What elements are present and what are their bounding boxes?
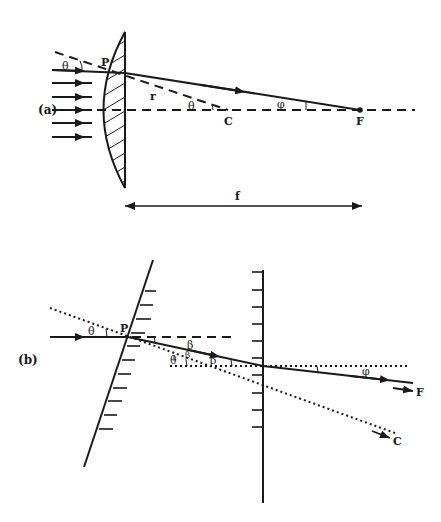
arrow-icon: [200, 85, 240, 91]
plano-convex-lens: [90, 32, 130, 202]
point-c-label: C: [393, 435, 402, 448]
slanted-surface: [84, 260, 153, 467]
panel-b-label: (b): [18, 353, 38, 367]
angle-theta-label: θ: [188, 100, 195, 113]
angle-theta-label: θ: [170, 354, 177, 367]
point-c-label: C: [224, 115, 233, 128]
refracted-ray: [125, 73, 360, 110]
angle-phi-label: φ: [277, 98, 285, 111]
slanted-surface-hatch: [99, 291, 156, 429]
angle-theta-label: θ: [88, 325, 95, 338]
vertical-surface-hatch: [252, 272, 263, 427]
radius-line: [55, 52, 228, 110]
panel-a: (a): [38, 32, 415, 206]
angle-arc-theta: [106, 329, 107, 337]
angle-arc-theta: [80, 61, 82, 71]
angle-beta-label: β: [210, 354, 216, 367]
angle-phi-label: φ: [362, 365, 370, 378]
angle-theta-label: θ: [62, 60, 69, 73]
panel-b: (b): [18, 260, 424, 503]
point-p-label: P: [101, 56, 109, 69]
arrow-to-c-icon: [372, 431, 390, 438]
point-f-label: F: [416, 386, 424, 399]
angle-arc-phi: [317, 366, 318, 372]
arrow-to-f-icon: [393, 388, 413, 391]
point-p-label: P: [120, 322, 128, 335]
lens-diagram: (a): [0, 0, 441, 522]
angle-beta-label: β: [185, 350, 190, 360]
focal-length-label: f: [235, 190, 241, 203]
radius-r-label: r: [150, 90, 156, 103]
point-f-label: F: [356, 115, 364, 128]
refracted-ray-exit: [263, 366, 413, 383]
focus-point: [357, 107, 363, 113]
